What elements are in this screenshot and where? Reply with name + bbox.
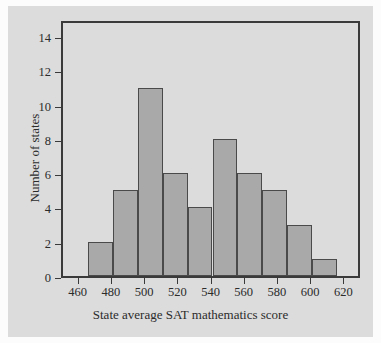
histogram-bar [312, 259, 337, 276]
x-axis-tick [277, 278, 278, 284]
histogram-bar [262, 190, 287, 276]
histogram-bar [163, 173, 188, 276]
y-axis-tick [55, 278, 61, 279]
histogram-bar [213, 139, 238, 276]
histogram-bar [138, 88, 163, 276]
histogram-bar [237, 173, 262, 276]
x-axis-tick [177, 278, 178, 284]
y-axis-tick-label: 14 [11, 32, 51, 45]
histogram-bar [113, 190, 138, 276]
x-axis-tick [310, 278, 311, 284]
y-axis-tick-label: 0 [11, 272, 51, 285]
y-axis-tick-label: 2 [11, 238, 51, 251]
histogram-bar [188, 207, 213, 276]
x-axis-tick [343, 278, 344, 284]
x-axis-tick [111, 278, 112, 284]
y-axis-label: Number of states [27, 78, 43, 238]
x-axis-tick [78, 278, 79, 284]
histogram-figure: 02468101214 460480500520540560580600620 … [0, 0, 381, 343]
x-axis-label: State average SAT mathematics score [0, 307, 381, 323]
plot-frame [61, 21, 360, 278]
bars-container [63, 23, 358, 276]
x-axis-tick [144, 278, 145, 284]
x-axis-tick-label: 620 [323, 286, 363, 299]
histogram-bar [287, 225, 312, 276]
x-axis-tick [244, 278, 245, 284]
histogram-bar [88, 242, 113, 276]
x-axis-tick [211, 278, 212, 284]
